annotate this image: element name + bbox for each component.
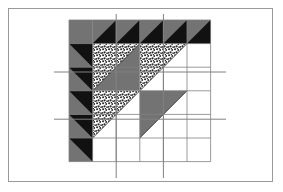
corner-unit — [69, 20, 93, 44]
quilt-block-svg — [0, 0, 283, 192]
quilt-diagram-stage — [0, 0, 283, 192]
figure-root — [0, 0, 283, 192]
